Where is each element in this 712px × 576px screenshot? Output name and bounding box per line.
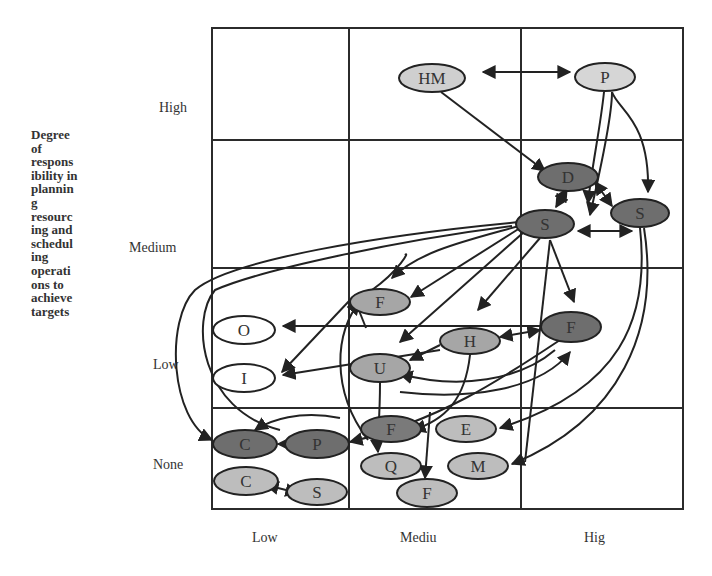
nodes: HM P D S S F O I <box>213 63 669 507</box>
edge-f-up <box>372 254 406 290</box>
node-s-mid[interactable]: S <box>516 210 574 238</box>
node-p-top[interactable]: P <box>575 63 635 91</box>
node-label: C <box>239 435 250 454</box>
node-label: S <box>635 204 644 223</box>
node-label: E <box>461 420 471 439</box>
node-label: P <box>600 68 609 87</box>
edge-s-fright <box>550 240 574 302</box>
edge-sright-m <box>512 228 647 464</box>
node-c-light[interactable]: C <box>214 467 278 495</box>
edge-p-sright <box>612 92 648 192</box>
node-label: H <box>464 332 476 351</box>
node-s-right[interactable]: S <box>611 199 669 227</box>
node-label: C <box>240 472 251 491</box>
node-label: F <box>566 318 575 337</box>
node-o[interactable]: O <box>213 316 275 344</box>
edge-hm-d <box>441 92 545 171</box>
node-label: I <box>241 369 247 388</box>
node-i[interactable]: I <box>213 364 275 392</box>
node-m[interactable]: M <box>448 453 508 479</box>
node-c-dark[interactable]: C <box>213 430 277 458</box>
edge-f-fbottom <box>425 412 430 478</box>
node-f-bottom[interactable]: F <box>397 479 457 507</box>
edge-s-down <box>525 240 550 462</box>
node-h[interactable]: H <box>440 328 500 354</box>
edge-fright-u <box>400 350 555 382</box>
node-label: S <box>540 215 549 234</box>
node-label: S <box>312 483 321 502</box>
edge-d-sright <box>595 182 612 206</box>
node-label: F <box>375 293 384 312</box>
node-label: D <box>562 168 574 187</box>
node-label: P <box>312 435 321 454</box>
edge-s-fmed <box>392 224 526 278</box>
node-hm[interactable]: HM <box>399 64 465 92</box>
node-f-right[interactable]: F <box>541 312 601 342</box>
node-f-med[interactable]: F <box>350 289 410 315</box>
node-label: M <box>470 457 485 476</box>
responsibility-diagram: HM P D S S F O I <box>0 0 712 576</box>
node-f-low1[interactable]: F <box>361 416 421 442</box>
node-e[interactable]: E <box>436 416 496 442</box>
node-u[interactable]: U <box>350 354 410 382</box>
node-label: F <box>386 420 395 439</box>
node-label: F <box>422 484 431 503</box>
node-label: HM <box>418 69 445 88</box>
edge-f-c <box>255 415 340 430</box>
node-label: O <box>238 321 250 340</box>
node-s-low[interactable]: S <box>287 479 347 505</box>
node-label: Q <box>385 457 397 476</box>
node-p-dark[interactable]: P <box>285 430 349 458</box>
node-q[interactable]: Q <box>361 453 421 479</box>
node-label: U <box>374 359 386 378</box>
node-d[interactable]: D <box>538 163 598 191</box>
